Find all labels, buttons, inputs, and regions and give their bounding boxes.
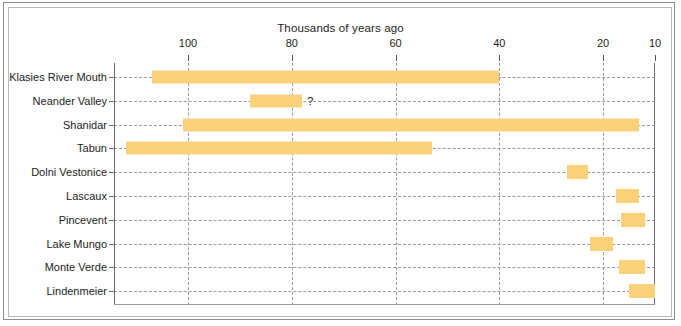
- x-tick-mark-20: [603, 55, 604, 61]
- y-axis-label-shanidar: Shanidar: [4, 119, 107, 131]
- row-gridline: [114, 101, 655, 102]
- x-tick-mark-60: [396, 55, 397, 61]
- y-tick-mark: [109, 267, 115, 268]
- y-tick-mark: [109, 125, 115, 126]
- y-tick-mark: [109, 172, 115, 173]
- bar-lascaux: [616, 189, 639, 203]
- x-tick-label-60: 60: [389, 37, 401, 49]
- row-gridline: [114, 196, 655, 197]
- y-axis-label-pincevent: Pincevent: [4, 214, 107, 226]
- chart-canvas: Thousands of years ago 1008060402010 Kla…: [0, 0, 681, 326]
- plot-area: 1008060402010 Klasies River MouthNeander…: [114, 63, 655, 305]
- bar-neander-valley: [250, 94, 302, 107]
- bar-shanidar: [183, 118, 640, 131]
- x-tick-label-100: 100: [179, 37, 197, 49]
- y-axis-line: [114, 63, 115, 305]
- y-axis-label-lake-mungo: Lake Mungo: [4, 238, 107, 250]
- y-axis-label-neander-valley: Neander Valley: [4, 95, 107, 107]
- y-tick-mark: [109, 291, 115, 292]
- chart-title: Thousands of years ago: [0, 22, 681, 34]
- gridline-100: [188, 63, 189, 305]
- bar-tabun: [126, 142, 432, 155]
- x-tick-label-10: 10: [649, 37, 661, 49]
- x-tick-mark-80: [292, 55, 293, 61]
- chart-page: Thousands of years ago 1008060402010 Kla…: [0, 0, 681, 326]
- y-tick-mark: [109, 196, 115, 197]
- y-axis-label-klasies-river-mouth: Klasies River Mouth: [4, 71, 107, 83]
- y-tick-mark: [109, 220, 115, 221]
- y-tick-mark: [109, 101, 115, 102]
- y-axis-label-lindenmeier: Lindenmeier: [4, 285, 107, 297]
- x-tick-label-80: 80: [286, 37, 298, 49]
- row-gridline: [114, 291, 655, 292]
- bar-monte-verde: [619, 260, 645, 274]
- gridline-20: [603, 63, 604, 305]
- y-tick-mark: [109, 244, 115, 245]
- row-gridline: [114, 267, 655, 268]
- x-tick-mark-10: [655, 55, 656, 61]
- bar-annotation-neander-valley: ?: [307, 95, 313, 107]
- gridline-60: [396, 63, 397, 305]
- y-tick-mark: [109, 77, 115, 78]
- right-axis-line: [654, 63, 655, 305]
- y-axis-label-dolni-vestonice: Dolni Vestonice: [4, 166, 107, 178]
- row-gridline: [114, 244, 655, 245]
- bar-lindenmeier: [629, 284, 655, 298]
- row-gridline: [114, 220, 655, 221]
- x-tick-label-20: 20: [597, 37, 609, 49]
- bar-dolni-vestonice: [567, 165, 588, 179]
- y-axis-label-lascaux: Lascaux: [4, 190, 107, 202]
- gridline-40: [499, 63, 500, 305]
- y-axis-label-tabun: Tabun: [4, 142, 107, 154]
- y-axis-label-monte-verde: Monte Verde: [4, 261, 107, 273]
- x-axis-line: [114, 304, 655, 305]
- x-tick-mark-40: [499, 55, 500, 61]
- x-tick-label-40: 40: [493, 37, 505, 49]
- bar-lake-mungo: [590, 237, 613, 251]
- bar-pincevent: [621, 213, 644, 227]
- y-tick-mark: [109, 148, 115, 149]
- x-tick-mark-100: [188, 55, 189, 61]
- bar-klasies-river-mouth: [152, 71, 500, 84]
